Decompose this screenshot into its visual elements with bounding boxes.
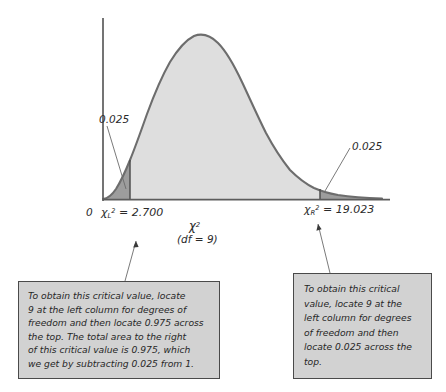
equals-right: = xyxy=(323,203,332,216)
chi-exponent-left: 2 xyxy=(111,207,115,215)
callout-left-line-2: 9 at the left column for degrees of xyxy=(28,303,210,317)
chi-exponent-right: 2 xyxy=(315,204,319,212)
callout-right-line-2: value, locate 9 at the xyxy=(304,297,422,312)
callout-left-line-3: freedom and then locate 0.975 across xyxy=(28,316,210,330)
critical-value-left-number: 2.700 xyxy=(132,206,164,219)
right-callout-leader xyxy=(316,224,330,273)
x-axis-label: χ2 xyxy=(189,219,200,233)
critical-value-right-label: χR2 = 19.023 xyxy=(304,203,374,217)
central-shaded-region xyxy=(103,35,382,199)
equals-left: = xyxy=(119,206,128,219)
callout-right-line-1: To obtain this critical xyxy=(304,282,422,297)
callout-left-line-6: we get by subtracting 0.025 from 1. xyxy=(28,357,210,371)
left-callout-leader xyxy=(125,241,139,281)
degrees-of-freedom-label: (df = 9) xyxy=(177,233,218,245)
callout-box-right: To obtain this critical value, locate 9 … xyxy=(293,273,432,379)
callout-left-line-1: To obtain this critical value, locate xyxy=(28,289,210,303)
callout-right-line-6: top. xyxy=(304,355,422,370)
right-tail-area-label: 0.025 xyxy=(352,140,382,152)
critical-value-left-label: χL2 = 2.700 xyxy=(101,206,163,220)
distribution-area-group xyxy=(103,35,382,199)
left-tail-area-label: 0.025 xyxy=(99,113,129,125)
right-tail-leader-line xyxy=(325,148,350,191)
callout-right-line-4: of freedom and then xyxy=(304,326,422,341)
callout-right-line-3: left column for degrees xyxy=(304,311,422,326)
left-tail-leader-line xyxy=(107,126,126,189)
origin-label: 0 xyxy=(86,206,93,218)
chi-symbol-axis: χ xyxy=(189,219,196,233)
callout-right-line-5: locate 0.025 across the xyxy=(304,340,422,355)
critical-value-right-number: 19.023 xyxy=(336,203,375,216)
callout-left-line-4: the top. The total area to the right xyxy=(28,330,210,344)
callout-left-line-5: of this critical value is 0.975, which xyxy=(28,343,210,357)
chi-exponent-axis: 2 xyxy=(196,221,200,229)
callout-box-left: To obtain this critical value, locate 9 … xyxy=(18,281,220,379)
